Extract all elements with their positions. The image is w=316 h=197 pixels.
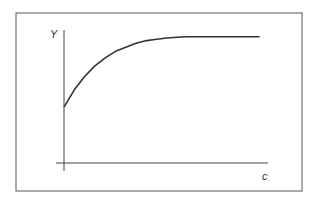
series-line-0 [64, 37, 260, 107]
series-layer [64, 37, 260, 107]
y-axis-label: Y [50, 28, 58, 40]
chart: Y c [0, 0, 316, 197]
x-axis-label: c [262, 170, 268, 182]
